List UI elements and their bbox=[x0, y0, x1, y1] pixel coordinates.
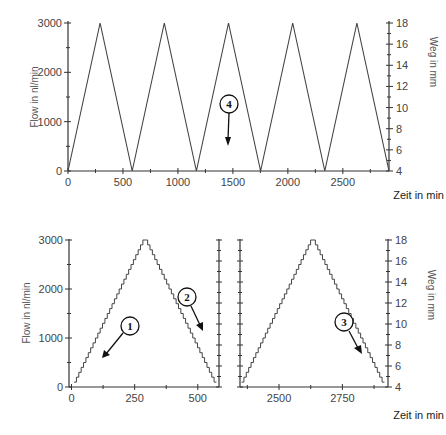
tick-label: 0 bbox=[57, 381, 63, 393]
tick-label: 1500 bbox=[221, 176, 245, 188]
y-axis-label-flow-bottom: Flow in nl/min bbox=[21, 282, 32, 343]
tick-label: 1000 bbox=[38, 116, 62, 128]
bottom-right-chart: 25002750 4681012141618 Weg in mm Zeit in… bbox=[237, 234, 444, 421]
bottom-left-chart: 0100020003000 0250500 Flow in nl/min 1 2 bbox=[21, 234, 222, 404]
figure: 0100020003000 05001000150020002500 46810… bbox=[0, 0, 446, 435]
y-axis-label-flow: Flow in nl/min bbox=[29, 66, 40, 127]
tick-label: 1000 bbox=[39, 332, 63, 344]
annotation-4: 4 bbox=[220, 95, 238, 146]
tick-label: 2500 bbox=[331, 176, 355, 188]
svg-text:1: 1 bbox=[127, 320, 133, 332]
tick-label: 6 bbox=[395, 360, 401, 372]
tick-label: 2000 bbox=[276, 176, 300, 188]
tick-label: 12 bbox=[395, 297, 407, 309]
svg-text:2: 2 bbox=[184, 291, 190, 303]
tick-label: 8 bbox=[395, 339, 401, 351]
tick-label: 18 bbox=[395, 234, 407, 246]
tick-label: 18 bbox=[396, 17, 408, 29]
tick-label: 14 bbox=[396, 59, 408, 71]
tick-label: 500 bbox=[114, 176, 132, 188]
tick-label: 250 bbox=[125, 392, 143, 404]
y2-axis-label-weg: Weg in mm bbox=[428, 37, 439, 87]
tick-label: 500 bbox=[189, 392, 207, 404]
tick-label: 4 bbox=[396, 165, 402, 177]
tick-label: 2000 bbox=[39, 283, 63, 295]
tick-label: 4 bbox=[395, 381, 401, 393]
svg-text:3: 3 bbox=[341, 316, 347, 328]
tick-label: 6 bbox=[396, 144, 402, 156]
weg-stepped-line bbox=[242, 240, 385, 382]
tick-label: 16 bbox=[395, 255, 407, 267]
tick-label: 10 bbox=[395, 318, 407, 330]
tick-label: 1000 bbox=[166, 176, 190, 188]
tick-label: 10 bbox=[396, 102, 408, 114]
tick-label: 0 bbox=[68, 392, 74, 404]
x-axis-label-zeit: Zeit in min bbox=[393, 189, 444, 201]
x-axis-label-zeit-bottom: Zeit in min bbox=[393, 409, 444, 421]
annotation-1: 1 bbox=[102, 317, 139, 358]
tick-label: 2000 bbox=[38, 66, 62, 78]
tick-label: 8 bbox=[396, 123, 402, 135]
flow-stepped-line bbox=[74, 240, 216, 382]
tick-label: 3000 bbox=[38, 17, 62, 29]
tick-label: 14 bbox=[395, 276, 407, 288]
tick-label: 12 bbox=[396, 80, 408, 92]
svg-text:4: 4 bbox=[226, 98, 232, 110]
y2-axis-label-weg-bottom: Weg in mm bbox=[426, 270, 437, 320]
tick-label: 0 bbox=[65, 176, 71, 188]
tick-label: 0 bbox=[56, 165, 62, 177]
tick-label: 3000 bbox=[39, 234, 63, 246]
tick-label: 16 bbox=[396, 38, 408, 50]
top-chart: 0100020003000 05001000150020002500 46810… bbox=[29, 17, 444, 201]
tick-label: 2750 bbox=[330, 392, 354, 404]
tick-label: 2500 bbox=[267, 392, 291, 404]
annotation-2: 2 bbox=[178, 288, 203, 331]
